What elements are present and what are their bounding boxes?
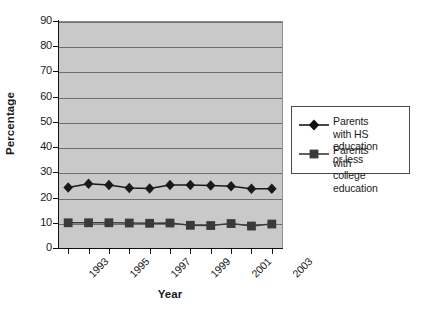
y-axis-title: Percentage <box>4 92 16 155</box>
y-tick-label: 70 <box>40 65 52 76</box>
x-tick-label: 1995 <box>128 256 152 280</box>
x-tick <box>231 249 232 254</box>
gridline <box>58 224 282 225</box>
gridline <box>58 22 282 23</box>
x-axis-title: Year <box>0 288 340 300</box>
gridline <box>58 199 282 200</box>
y-tick-label: 10 <box>40 217 52 228</box>
gridline <box>58 98 282 99</box>
x-tick <box>272 249 273 254</box>
x-tick-label: 1999 <box>209 256 233 280</box>
y-tick <box>53 97 58 98</box>
y-tick <box>53 71 58 72</box>
y-tick <box>53 147 58 148</box>
y-tick-label: 30 <box>40 166 52 177</box>
gridline <box>58 173 282 174</box>
x-tick <box>68 249 69 254</box>
x-tick <box>129 249 130 254</box>
gridline <box>58 123 282 124</box>
gridline <box>58 47 282 48</box>
x-tick <box>150 249 151 254</box>
y-tick <box>53 248 58 249</box>
y-tick <box>53 198 58 199</box>
gridline <box>58 148 282 149</box>
chart-container: 0102030405060708090 19931995199719992001… <box>0 0 430 313</box>
y-tick-label: 20 <box>40 192 52 203</box>
plot-area <box>58 21 283 249</box>
y-tick <box>53 21 58 22</box>
x-tick-label: 1997 <box>168 256 192 280</box>
x-tick <box>211 249 212 254</box>
legend-label-college: Parents with college education <box>333 144 378 194</box>
x-tick <box>251 249 252 254</box>
y-tick <box>53 172 58 173</box>
y-tick-label: 40 <box>40 141 52 152</box>
x-tick-label: 2003 <box>290 256 314 280</box>
y-tick-label: 50 <box>40 116 52 127</box>
y-tick <box>53 122 58 123</box>
y-tick-label: 90 <box>40 15 52 26</box>
x-tick <box>89 249 90 254</box>
y-tick <box>53 223 58 224</box>
x-tick-label: 2001 <box>250 256 274 280</box>
y-tick-label: 0 <box>46 242 52 253</box>
y-axis-line <box>58 20 59 249</box>
square-marker-icon <box>299 148 329 160</box>
y-tick-label: 80 <box>40 40 52 51</box>
diamond-marker-icon <box>299 119 329 131</box>
x-tick <box>170 249 171 254</box>
legend: Parents with HS education or less Parent… <box>291 106 410 174</box>
y-tick-label: 60 <box>40 91 52 102</box>
y-tick <box>53 46 58 47</box>
x-tick-label: 1993 <box>87 256 111 280</box>
gridline <box>58 72 282 73</box>
x-tick <box>190 249 191 254</box>
x-tick <box>109 249 110 254</box>
